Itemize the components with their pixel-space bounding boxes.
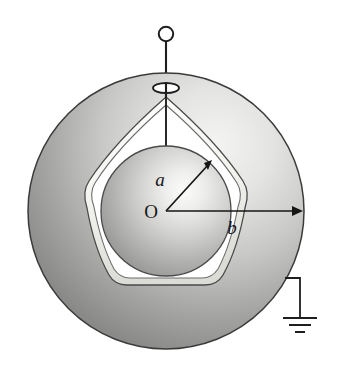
ground-wire [285,278,300,318]
label-center-O: O [144,201,158,222]
label-a: a [155,169,165,190]
figure-container: a O b [0,0,345,375]
capacitor-diagram: a O b [0,0,345,375]
ground-symbol [283,318,317,332]
label-b: b [227,217,237,238]
ground-connection [283,278,317,332]
terminal-knob [159,27,173,41]
